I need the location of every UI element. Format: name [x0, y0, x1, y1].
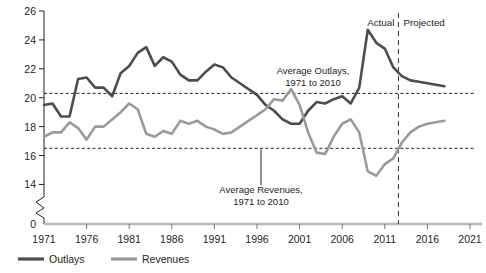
x-tick-label: 1996: [245, 233, 269, 245]
actual-label: Actual: [367, 17, 394, 28]
x-tick-label: 2006: [331, 233, 355, 245]
average-revenues-annotation-line1: Average Revenues,: [219, 184, 302, 195]
average-outlays-annotation-line2: 1971 to 2010: [285, 77, 340, 88]
chart-root: 141618202224260 197119761981198619911996…: [0, 0, 486, 273]
x-tick-label: 1971: [32, 233, 56, 245]
y-tick-label: 20: [24, 92, 36, 104]
average-outlays-annotation-line1: Average Outlays,: [277, 65, 350, 76]
y-tick-label: 26: [24, 5, 36, 17]
y-tick-label: 16: [24, 150, 36, 162]
y-tick-label-zero: 0: [30, 218, 36, 230]
y-tick-label: 14: [24, 178, 36, 190]
x-tick-label: 1991: [203, 233, 227, 245]
y-tick-label: 24: [24, 34, 36, 46]
legend-label-outlays: Outlays: [49, 253, 85, 265]
average-revenues-annotation-line2: 1971 to 2010: [233, 196, 288, 207]
x-tick-label: 2001: [288, 233, 312, 245]
x-tick-label: 2016: [416, 233, 440, 245]
x-tick-label: 1981: [118, 233, 142, 245]
federal-outlays-revenues-line-chart: 141618202224260 197119761981198619911996…: [0, 0, 486, 273]
projected-label: Projected: [403, 17, 444, 28]
x-tick-label: 1976: [75, 233, 99, 245]
y-tick-label: 22: [24, 63, 36, 75]
x-tick-label: 1986: [160, 233, 184, 245]
legend-label-revenues: Revenues: [142, 253, 189, 265]
chart-background: [0, 0, 486, 273]
x-tick-label: 2011: [374, 233, 397, 245]
x-tick-label: 2021: [458, 233, 482, 245]
y-tick-label: 18: [24, 121, 36, 133]
